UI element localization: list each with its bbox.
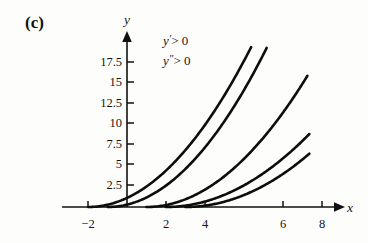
y-tick-label-15: 15 bbox=[110, 75, 123, 89]
y-tick-label-5: 5 bbox=[116, 157, 122, 171]
x-axis-arrowhead bbox=[334, 202, 345, 212]
x-axis-label: x bbox=[346, 200, 353, 215]
x-tick-label-8: 8 bbox=[319, 217, 325, 231]
x-tick-label-2: 2 bbox=[163, 217, 169, 231]
y-tick-label-7-5: 7.5 bbox=[106, 137, 122, 151]
svg-text:y′> 0: y′> 0 bbox=[161, 32, 188, 48]
plot-canvas: −2 2 4 6 8 2.5 5 7.5 10 12.5 15 17.5 x y… bbox=[0, 0, 368, 243]
figure-container: (c) −2 bbox=[0, 0, 368, 243]
curve-2 bbox=[108, 48, 267, 207]
y-axis-arrowhead bbox=[122, 31, 132, 42]
y-tick-label-17-5: 17.5 bbox=[100, 55, 122, 69]
svg-text:y″> 0: y″> 0 bbox=[161, 52, 190, 68]
y-tick-label-10: 10 bbox=[110, 116, 123, 130]
y-axis-label: y bbox=[122, 12, 130, 27]
y-axis bbox=[122, 31, 132, 207]
curve-5 bbox=[185, 154, 309, 207]
curve-3 bbox=[146, 76, 307, 207]
y-ticks bbox=[127, 62, 134, 185]
annot2-rel: > 0 bbox=[173, 53, 190, 68]
annot1-rel: > 0 bbox=[171, 33, 188, 48]
x-tick-label-neg2: −2 bbox=[81, 217, 94, 231]
x-tick-label-4: 4 bbox=[202, 217, 209, 231]
x-tick-label-6: 6 bbox=[280, 217, 286, 231]
y-tick-label-12-5: 12.5 bbox=[100, 96, 122, 110]
annotation-second-derivative: y″> 0 bbox=[161, 52, 190, 68]
annotation-first-derivative: y′> 0 bbox=[161, 32, 188, 48]
y-tick-label-2-5: 2.5 bbox=[106, 178, 122, 192]
